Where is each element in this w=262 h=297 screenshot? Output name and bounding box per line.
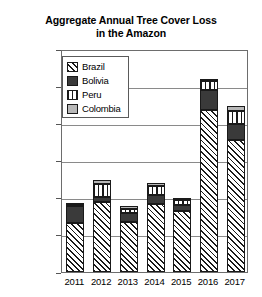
chart-title-line-1: Aggregate Annual Tree Cover Loss bbox=[45, 14, 216, 26]
legend-item-bolivia[interactable]: Bolivia bbox=[67, 74, 128, 88]
y-tick-mark bbox=[56, 124, 61, 125]
bar-segment-2011-bolivia bbox=[66, 206, 84, 223]
legend-item-peru[interactable]: Peru bbox=[67, 88, 128, 102]
bar-segment-2017-bolivia bbox=[227, 124, 245, 140]
bar-segment-2011-brazil bbox=[66, 223, 84, 272]
y-tick-mark bbox=[56, 235, 61, 236]
y-tick-mark bbox=[56, 50, 61, 51]
legend-label: Bolivia bbox=[82, 76, 109, 86]
bar-segment-2016-colombia bbox=[200, 79, 218, 81]
x-tick-label-2017: 2017 bbox=[218, 277, 252, 287]
bar-segment-2012-brazil bbox=[93, 202, 111, 272]
bar-group-2016 bbox=[200, 49, 218, 272]
bar-segment-2015-colombia bbox=[173, 198, 191, 200]
bar-segment-2016-peru bbox=[200, 81, 218, 89]
legend-swatch-bolivia-icon bbox=[67, 76, 78, 86]
bar-segment-2013-peru bbox=[120, 209, 138, 213]
bar-segment-2012-peru bbox=[93, 184, 111, 197]
bar-segment-2017-brazil bbox=[227, 140, 245, 272]
legend-swatch-brazil-icon bbox=[67, 62, 78, 72]
chart-legend: BrazilBoliviaPeruColombia bbox=[62, 56, 129, 118]
bar-segment-2011-colombia bbox=[66, 203, 84, 205]
legend-item-colombia[interactable]: Colombia bbox=[67, 102, 128, 116]
y-tick-mark bbox=[56, 161, 61, 162]
bar-segment-2013-colombia bbox=[120, 206, 138, 209]
bar-segment-2012-bolivia bbox=[93, 197, 111, 202]
legend-label: Peru bbox=[82, 90, 101, 100]
legend-swatch-colombia-icon bbox=[67, 104, 78, 114]
y-tick-mark bbox=[56, 87, 61, 88]
tree-cover-loss-chart: Aggregate Annual Tree Cover Loss in the … bbox=[0, 0, 262, 297]
bar-group-2014 bbox=[147, 49, 165, 272]
bar-segment-2015-peru bbox=[173, 200, 191, 205]
y-tick-mark bbox=[56, 273, 61, 274]
bar-segment-2016-brazil bbox=[200, 110, 218, 272]
bar-segment-2014-peru bbox=[147, 186, 165, 195]
bar-segment-2015-bolivia bbox=[173, 205, 191, 211]
bar-segment-2014-colombia bbox=[147, 183, 165, 186]
bar-group-2015 bbox=[173, 49, 191, 272]
bar-segment-2017-peru bbox=[227, 111, 245, 124]
bar-group-2017 bbox=[227, 49, 245, 272]
chart-title: Aggregate Annual Tree Cover Loss in the … bbox=[12, 14, 250, 39]
legend-label: Colombia bbox=[82, 104, 121, 114]
legend-label: Brazil bbox=[82, 62, 105, 72]
bar-segment-2017-colombia bbox=[227, 106, 245, 111]
bar-segment-2012-colombia bbox=[93, 180, 111, 184]
bar-segment-2013-bolivia bbox=[120, 213, 138, 222]
y-tick-mark bbox=[56, 198, 61, 199]
bar-segment-2014-bolivia bbox=[147, 195, 165, 204]
bar-segment-2013-brazil bbox=[120, 222, 138, 272]
bar-segment-2014-brazil bbox=[147, 204, 165, 272]
bar-segment-2015-brazil bbox=[173, 211, 191, 272]
legend-swatch-peru-icon bbox=[67, 90, 78, 100]
legend-item-brazil[interactable]: Brazil bbox=[67, 60, 128, 74]
chart-title-line-2: in the Amazon bbox=[12, 27, 250, 40]
bar-segment-2016-bolivia bbox=[200, 90, 218, 111]
